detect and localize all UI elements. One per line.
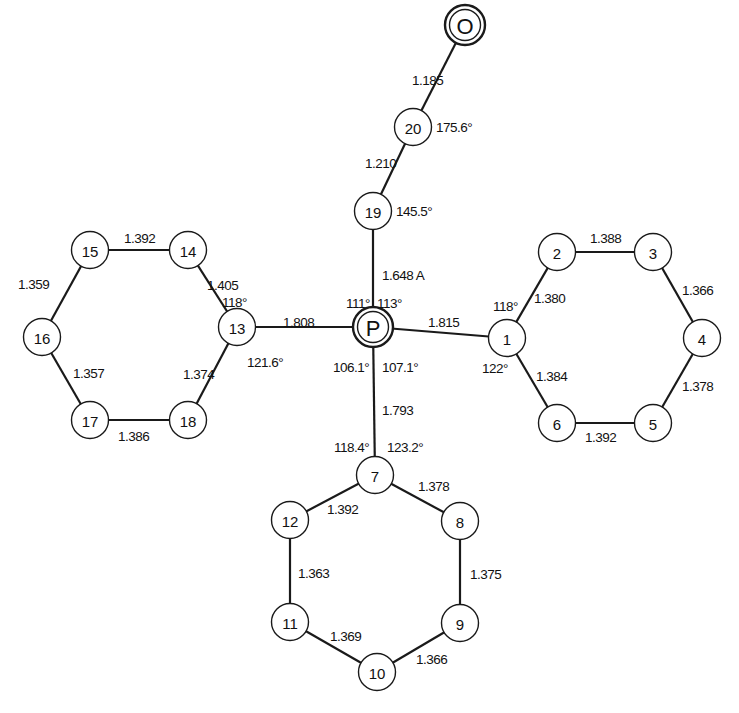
atom-label: 12 (282, 513, 299, 530)
bonds-layer (42, 25, 702, 672)
bond-angle-label: 175.6° (436, 120, 472, 135)
atom-label: 20 (405, 120, 422, 137)
bond-length-label: 1.384 (536, 369, 568, 384)
bond-length-label: 1.815 (428, 315, 459, 330)
atom-O: O (445, 5, 485, 45)
atom-label: 5 (649, 416, 657, 433)
atom-label: 3 (649, 245, 657, 262)
atoms-layer: O2019P123456789101112131415161718 (24, 5, 721, 691)
atom-label: O (456, 14, 473, 39)
atom-P: P (353, 307, 393, 347)
atom-label: 8 (456, 514, 464, 531)
bond-angle-label: 145.5° (396, 204, 432, 219)
bond-length-label: 1.369 (330, 629, 361, 644)
atom-19: 19 (355, 193, 392, 230)
bond-length-label: 1.386 (118, 429, 149, 444)
bond-angle-label: 123.2° (387, 440, 423, 455)
atom-label: 16 (34, 330, 51, 347)
bond-angle-label: 111° (346, 296, 370, 311)
bond-length-label: 1.392 (585, 430, 616, 445)
atom-11: 11 (272, 604, 309, 641)
atom-label: 19 (365, 204, 382, 221)
bond-length-label: 1.388 (590, 231, 621, 246)
bond-length-label: 1.648 A (382, 268, 425, 283)
bond-angle-label: 118° (222, 295, 247, 310)
bond-length-label: 1.392 (124, 231, 155, 246)
bond-length-label: 1.363 (298, 566, 329, 581)
bond-length-label: 1.378 (682, 379, 713, 394)
bond-length-label: 1.808 (283, 315, 314, 330)
bond-length-label: 1.380 (534, 291, 565, 306)
atom-12: 12 (272, 502, 309, 539)
atom-10: 10 (359, 654, 396, 691)
atom-20: 20 (395, 109, 432, 146)
atom-17: 17 (72, 402, 109, 439)
atom-label: 17 (82, 413, 99, 430)
bond-angle-label: 118° (493, 299, 518, 314)
atom-7: 7 (357, 457, 394, 494)
atom-label: 6 (553, 416, 561, 433)
atom-label: 13 (229, 320, 246, 337)
bond-angle-label: 121.6° (247, 355, 283, 370)
bond-angle-label: 122° (482, 361, 508, 376)
atom-label: 11 (282, 615, 298, 632)
bond-length-label: 1.366 (416, 652, 447, 667)
atom-13: 13 (219, 309, 256, 346)
atom-6: 6 (539, 405, 576, 442)
atom-2: 2 (539, 234, 576, 271)
bond-angle-label: 106.1° (333, 360, 369, 375)
atom-9: 9 (442, 605, 479, 642)
atom-14: 14 (170, 232, 207, 269)
bond-length-label: 1.185 (412, 73, 443, 88)
bond-length-label: 1.366 (682, 283, 713, 298)
atom-16: 16 (24, 319, 61, 356)
atom-15: 15 (72, 232, 109, 269)
bond-length-label: 1.357 (73, 366, 104, 381)
atom-3: 3 (635, 234, 672, 271)
atom-label: 2 (553, 245, 561, 262)
atom-5: 5 (635, 405, 672, 442)
bond-P-7 (373, 327, 375, 475)
bond-length-label: 1.405 (207, 278, 238, 293)
molecular-structure-diagram: O2019P123456789101112131415161718 1.1851… (0, 0, 739, 713)
atom-label: 7 (371, 468, 379, 485)
atom-4: 4 (684, 320, 721, 357)
bond-length-label: 1.210 (365, 156, 396, 171)
atom-label: 10 (369, 665, 386, 682)
bond-length-label: 1.378 (418, 479, 449, 494)
bond-angle-label: 118.4° (334, 440, 369, 455)
bond-angle-label: 107.1° (382, 360, 418, 375)
bond-length-label: 1.375 (470, 567, 501, 582)
atom-label: P (366, 316, 381, 341)
atom-label: 14 (180, 243, 197, 260)
atom-label: 15 (82, 243, 99, 260)
atom-label: 1 (503, 331, 511, 348)
bond-angle-label: 113° (377, 296, 402, 311)
bond-length-label: 1.359 (18, 277, 49, 292)
bond-length-label: 1.392 (327, 502, 358, 517)
bond-length-label: 1.374 (183, 367, 215, 382)
atom-label: 9 (456, 616, 464, 633)
atom-18: 18 (170, 402, 207, 439)
atom-8: 8 (442, 503, 479, 540)
atom-label: 18 (180, 413, 197, 430)
bond-length-label: 1.793 (382, 403, 413, 418)
atom-label: 4 (698, 331, 706, 348)
atom-1: 1 (489, 320, 526, 357)
